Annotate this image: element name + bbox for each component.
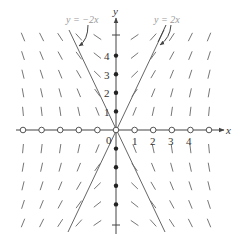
open-circle-marker bbox=[20, 127, 26, 133]
slope-segment bbox=[41, 107, 42, 115]
slope-segment bbox=[131, 221, 138, 226]
slope-segment bbox=[190, 163, 192, 171]
x-axis-label: x bbox=[225, 124, 231, 136]
slope-segment bbox=[21, 33, 24, 41]
slope-segment bbox=[60, 107, 61, 115]
open-circle-marker bbox=[76, 127, 82, 133]
slope-segment bbox=[170, 34, 175, 41]
slope-segment bbox=[77, 163, 80, 171]
y-tick-label-1: 1 bbox=[104, 106, 110, 118]
slope-segment bbox=[94, 35, 101, 40]
y-tick-label-2: 2 bbox=[104, 87, 110, 99]
open-circle-marker bbox=[39, 127, 45, 133]
slope-segment bbox=[152, 89, 155, 97]
slope-segment bbox=[40, 219, 44, 227]
open-circle-marker bbox=[150, 127, 156, 133]
y-tick-label-4: 4 bbox=[104, 50, 110, 62]
slope-segment bbox=[22, 163, 23, 171]
slope-segment bbox=[189, 70, 192, 78]
slope-segment bbox=[76, 34, 82, 40]
filled-dot-marker bbox=[114, 146, 118, 150]
filled-dot-marker bbox=[114, 91, 118, 95]
slope-segment bbox=[40, 182, 43, 190]
slope-segment bbox=[22, 89, 23, 97]
slope-segment bbox=[78, 145, 80, 153]
filled-dot-marker bbox=[114, 202, 118, 206]
slope-segment bbox=[208, 70, 210, 78]
slope-segment bbox=[207, 219, 210, 227]
slope-segment bbox=[152, 107, 154, 115]
open-circle-marker bbox=[113, 127, 119, 133]
y-tick-label-3: 3 bbox=[104, 69, 110, 81]
slope-segment bbox=[189, 201, 192, 209]
slope-segment bbox=[77, 71, 81, 78]
slope-segment bbox=[23, 144, 24, 152]
slope-segment bbox=[208, 200, 211, 208]
slope-segment bbox=[151, 71, 155, 78]
slope-segment bbox=[40, 70, 43, 78]
slope-segment bbox=[41, 89, 43, 97]
slope-segment bbox=[40, 52, 43, 60]
slope-segment bbox=[190, 107, 191, 115]
callout-arrow-left bbox=[79, 25, 88, 46]
filled-dot-marker bbox=[114, 53, 118, 57]
slope-field-figure: y = −2x y = 2x y x 0 1 2 3 4 1 2 3 4 bbox=[0, 0, 241, 248]
open-circle-marker bbox=[188, 127, 194, 133]
callout-line-right bbox=[158, 25, 166, 42]
slope-segment bbox=[131, 35, 138, 40]
slope-segment bbox=[76, 220, 82, 226]
slope-segment bbox=[131, 202, 138, 207]
slope-segment bbox=[96, 108, 99, 116]
slope-segment bbox=[59, 182, 62, 190]
slope-segment bbox=[209, 144, 210, 152]
slope-segment bbox=[151, 182, 155, 189]
slope-segment bbox=[207, 33, 210, 41]
filled-dot-marker bbox=[114, 72, 118, 76]
slope-segment bbox=[96, 145, 99, 153]
slope-segment bbox=[78, 107, 80, 115]
slope-segment bbox=[77, 89, 80, 97]
slope-segment bbox=[94, 202, 101, 207]
slope-segment bbox=[150, 34, 156, 40]
isocline-label-left: y = −2x bbox=[65, 14, 99, 25]
slope-segment bbox=[94, 53, 101, 58]
x-tick-label-4: 4 bbox=[186, 135, 192, 147]
isocline-label-right: y = 2x bbox=[153, 14, 180, 25]
slope-segment bbox=[40, 33, 44, 41]
slope-segment bbox=[94, 183, 100, 189]
slope-segment bbox=[58, 34, 63, 41]
slope-segment bbox=[189, 219, 193, 227]
slope-segment bbox=[22, 70, 24, 78]
slope-segment bbox=[60, 144, 61, 152]
slope-segment bbox=[208, 182, 210, 190]
slope-segment bbox=[170, 52, 174, 59]
slope-segment bbox=[208, 89, 209, 97]
slope-segment bbox=[94, 71, 100, 77]
x-tick-label-3: 3 bbox=[168, 135, 174, 147]
slope-segment bbox=[131, 53, 138, 58]
slope-segment bbox=[132, 71, 138, 77]
slope-segment bbox=[59, 163, 61, 171]
slope-segment bbox=[21, 219, 24, 227]
slope-segment bbox=[22, 52, 25, 60]
open-circle-marker bbox=[169, 127, 175, 133]
slope-segment bbox=[189, 52, 192, 60]
slope-segment bbox=[77, 182, 81, 189]
x-tick-label-1: 1 bbox=[132, 135, 138, 147]
slope-segment bbox=[208, 163, 209, 171]
slope-segment bbox=[41, 163, 43, 171]
open-circle-marker bbox=[206, 127, 212, 133]
slope-segment bbox=[132, 183, 138, 189]
slope-segment bbox=[208, 52, 211, 60]
open-circle-marker bbox=[132, 127, 138, 133]
slope-segment bbox=[59, 89, 61, 97]
slope-segment bbox=[76, 201, 81, 208]
slope-segment bbox=[170, 182, 173, 190]
filled-dot-marker bbox=[114, 109, 118, 113]
slope-segment bbox=[22, 200, 25, 208]
x-tick-label-2: 2 bbox=[150, 135, 156, 147]
slope-segment bbox=[170, 220, 175, 227]
slope-segment bbox=[58, 52, 62, 59]
slope-segment bbox=[58, 201, 62, 208]
slope-segment bbox=[189, 33, 193, 41]
